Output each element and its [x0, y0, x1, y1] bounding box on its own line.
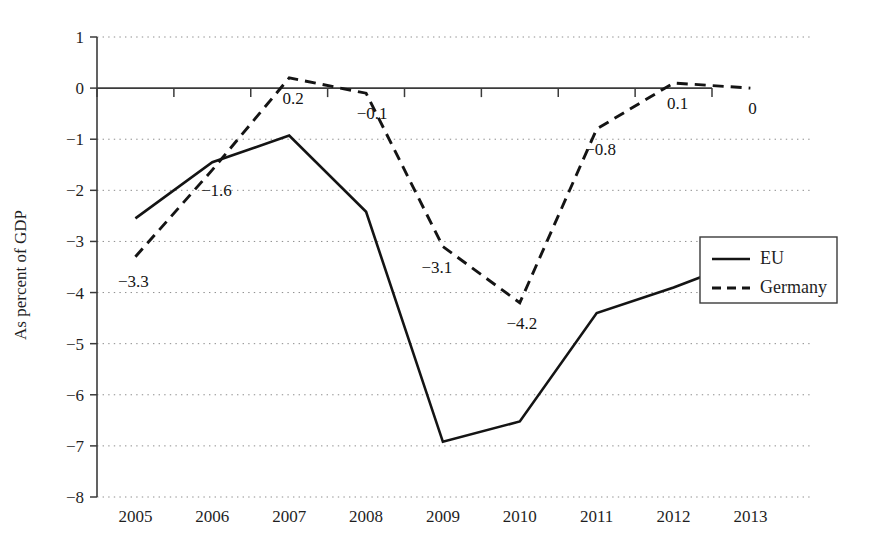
x-tick-label: 2006: [195, 507, 229, 526]
x-tick-label: 2011: [580, 507, 613, 526]
y-tick-label: 0: [76, 79, 85, 98]
x-axis-tick-labels: 200520062007200820092010201120122013: [118, 507, 767, 526]
chart-canvas: 10−1−2−3−4−5−6−7−8 200520062007200820092…: [0, 0, 870, 550]
x-tick-label: 2008: [349, 507, 383, 526]
y-axis-title: As percent of GDP: [11, 210, 30, 340]
x-tick-label: 2009: [426, 507, 460, 526]
data-point-label: −3.3: [118, 272, 149, 291]
data-point-labels-group: −3.3−1.60.2−0.1−3.1−4.2−0.80.10: [118, 89, 757, 333]
y-tick-label: −4: [66, 284, 85, 303]
y-axis-ticks-group: [90, 37, 97, 497]
data-point-label: −3.1: [421, 258, 452, 277]
data-point-label: −0.1: [357, 104, 388, 123]
data-point-label: 0.2: [283, 89, 304, 108]
data-point-label: −1.6: [201, 181, 232, 200]
data-point-label: 0.1: [667, 94, 688, 113]
x-axis-ticks-group: [97, 88, 712, 97]
y-tick-label: −8: [66, 488, 84, 507]
y-axis-tick-labels: 10−1−2−3−4−5−6−7−8: [66, 28, 85, 507]
y-tick-label: −7: [66, 437, 85, 456]
y-tick-label: 1: [76, 28, 85, 47]
x-tick-label: 2013: [733, 507, 767, 526]
deficit-line-chart: 10−1−2−3−4−5−6−7−8 200520062007200820092…: [0, 0, 870, 550]
data-point-label: −4.2: [506, 314, 537, 333]
legend-label-eu: EU: [760, 248, 784, 268]
y-tick-label: −1: [66, 130, 84, 149]
legend-label-germany: Germany: [760, 277, 827, 297]
y-tick-label: −5: [66, 335, 84, 354]
x-tick-label: 2010: [503, 507, 537, 526]
y-tick-label: −3: [66, 232, 84, 251]
data-point-label: 0: [748, 99, 757, 118]
chart-legend: EU Germany: [700, 237, 837, 303]
y-tick-label: −2: [66, 181, 84, 200]
x-tick-label: 2005: [118, 507, 152, 526]
data-point-label: −0.8: [585, 140, 616, 159]
x-tick-label: 2007: [272, 507, 307, 526]
x-tick-label: 2012: [657, 507, 691, 526]
y-tick-label: −6: [66, 386, 84, 405]
